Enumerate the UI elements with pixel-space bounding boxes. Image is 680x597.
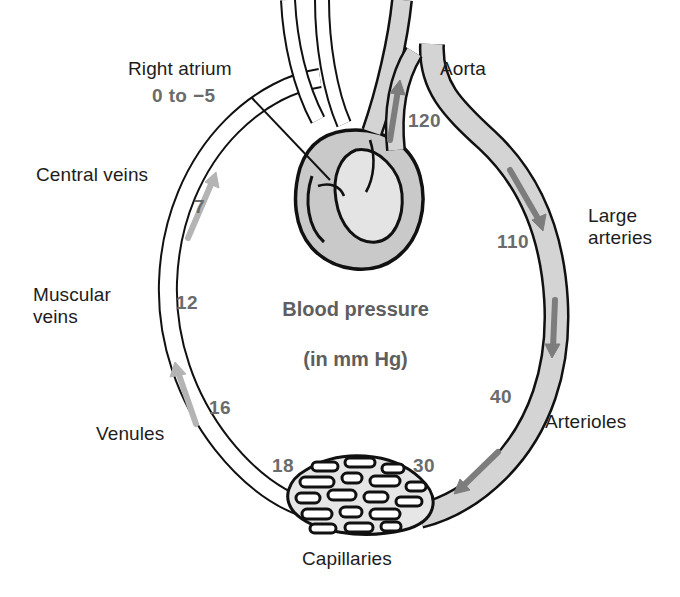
pressure-central-veins: 7 [194,196,205,218]
pressure-arterioles: 40 [490,386,512,408]
label-muscular-veins-line2: veins [33,306,78,327]
pressure-muscular-veins: 12 [176,292,198,314]
label-central-veins: Central veins [36,164,148,185]
pressure-right-atrium: 0 to −5 [152,85,216,107]
heart [296,130,423,269]
label-aorta: Aorta [440,58,486,79]
label-large-arteries-line2: arteries [588,227,652,248]
figure-title-line2: (in mm Hg) [303,348,407,370]
pressure-aorta: 120 [408,110,441,132]
pressure-venules: 16 [209,397,231,419]
label-muscular-veins-line1: Muscular [33,284,111,305]
pressure-capillary-venous-end: 18 [272,455,294,477]
label-arterioles: Arterioles [545,411,626,432]
label-capillaries: Capillaries [302,548,392,569]
label-large-arteries-line1: Large [588,205,637,226]
figure-title: Blood pressure (in mm Hg) [240,272,460,372]
label-venules: Venules [96,423,164,444]
pressure-capillary-arterial-end: 30 [413,455,435,477]
pressure-large-arteries: 110 [497,231,529,253]
figure-title-line1: Blood pressure [282,298,429,320]
label-right-atrium: Right atrium [128,58,232,79]
